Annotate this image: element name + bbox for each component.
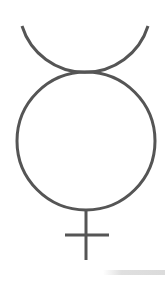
circle-body (17, 72, 155, 210)
scan-smudge (103, 270, 165, 275)
crescent-horns (22, 26, 148, 72)
mercury-icon (0, 0, 165, 282)
